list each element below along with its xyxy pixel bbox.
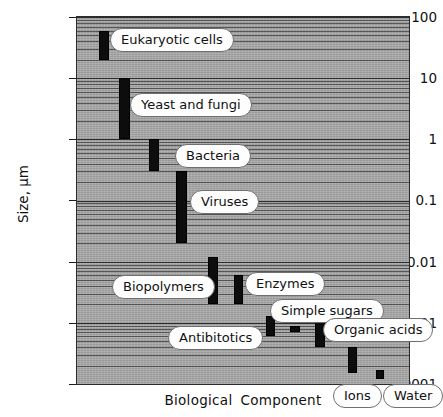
gridline	[77, 243, 409, 244]
label-biopolymers: Biopolymers	[112, 275, 215, 299]
bar-yeast-and-fungi	[119, 78, 130, 139]
bar-viruses	[176, 171, 187, 243]
label-bacteria: Bacteria	[175, 144, 251, 168]
gridline	[77, 271, 409, 272]
bar-water	[376, 370, 384, 379]
gridline	[77, 171, 409, 172]
label-organic-acids: Organic acids	[323, 318, 433, 342]
gridline	[77, 60, 409, 61]
gridline	[77, 233, 409, 234]
bar-enzymes	[234, 275, 243, 304]
y-tick-mark-0-0001	[69, 384, 76, 385]
gridline	[77, 214, 409, 215]
y-tick-mark-10	[69, 78, 76, 79]
gridline	[77, 265, 409, 266]
label-eukaryotic-cells: Eukaryotic cells	[110, 28, 234, 52]
bar-simple-sugars	[290, 326, 300, 333]
y-axis-title: Size, μm	[15, 149, 31, 239]
gridline	[77, 17, 409, 18]
label-antibiotics: Antibitotics	[168, 326, 263, 350]
bar-eukaryotic-cells	[99, 31, 109, 60]
bar-ions	[348, 347, 357, 373]
gridline	[77, 268, 409, 269]
label-yeast-and-fungi: Yeast and fungi	[130, 93, 252, 117]
x-axis-title-word2: Component	[236, 392, 325, 408]
x-axis-title-word1: Biological	[160, 392, 236, 408]
gridline	[77, 139, 409, 140]
gridline	[77, 20, 409, 21]
gridline	[77, 182, 409, 183]
y-tick-mark-0-01	[69, 262, 76, 263]
label-viruses: Viruses	[190, 190, 259, 214]
y-tick-mark-0-1	[69, 200, 76, 201]
gridline	[77, 262, 409, 263]
gridline	[77, 355, 409, 356]
label-enzymes: Enzymes	[245, 272, 325, 296]
bar-bacteria	[149, 139, 159, 171]
gridline	[77, 142, 409, 143]
gridline	[77, 219, 409, 220]
y-tick-mark-1	[69, 139, 76, 140]
gridline	[77, 225, 409, 226]
y-tick-mark-0-001	[69, 323, 76, 324]
x-axis-title: BiologicalComponent	[76, 392, 410, 408]
y-tick-mark-100	[69, 17, 76, 18]
gridline	[77, 23, 409, 24]
gridline	[77, 366, 409, 367]
